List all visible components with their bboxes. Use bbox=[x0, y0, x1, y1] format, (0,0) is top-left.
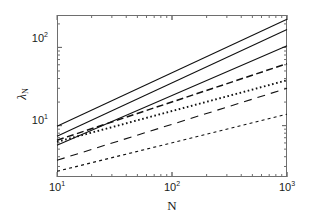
x-tick-label-1e1: 101 bbox=[40, 180, 74, 193]
x-axis-title: N bbox=[57, 198, 287, 214]
curve-dashed-1 bbox=[57, 64, 287, 141]
y-tick-mantissa: 10 bbox=[32, 114, 44, 126]
x-tick-exponent: 3 bbox=[291, 180, 295, 187]
curve-dotted-1 bbox=[57, 80, 287, 142]
y-tick-mantissa: 10 bbox=[32, 32, 44, 44]
x-tick-label-1e3: 103 bbox=[270, 180, 304, 193]
y-axis-title-symbol: λ bbox=[14, 94, 29, 100]
x-tick-exponent: 2 bbox=[176, 180, 180, 187]
data-curves bbox=[57, 19, 287, 171]
curve-longdash-1 bbox=[57, 88, 287, 160]
x-tick-label-1e2: 102 bbox=[155, 180, 189, 193]
curve-solid-1 bbox=[57, 19, 287, 126]
curve-finedash-1 bbox=[57, 114, 287, 171]
curve-solid-3 bbox=[57, 46, 287, 146]
y-axis-title: λN bbox=[14, 66, 30, 122]
y-axis-title-subscript: N bbox=[21, 88, 30, 94]
curve-solid-2 bbox=[57, 29, 287, 136]
y-tick-exponent: 2 bbox=[44, 31, 48, 38]
x-tick-mantissa: 10 bbox=[279, 181, 291, 193]
y-tick-exponent: 1 bbox=[44, 113, 48, 120]
figure-canvas: 102 101 101 102 103 λN N bbox=[0, 0, 314, 220]
x-tick-mantissa: 10 bbox=[164, 181, 176, 193]
y-tick-label-1e2: 102 bbox=[22, 31, 48, 44]
x-tick-exponent: 1 bbox=[61, 180, 65, 187]
x-tick-mantissa: 10 bbox=[49, 181, 61, 193]
